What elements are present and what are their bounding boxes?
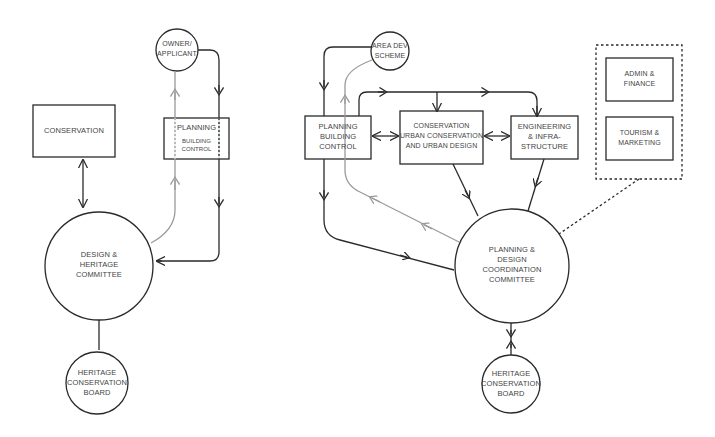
admin-finance-label: ADMIN & FINANCE bbox=[606, 69, 673, 89]
heritage-board-label-right: HERITAGE CONSERVATION BOARD bbox=[480, 369, 542, 399]
area-dev-scheme-label: AREA DEV SCHEME bbox=[371, 41, 409, 61]
owner-applicant-label: OWNER/ APPLICANT bbox=[156, 39, 198, 59]
gray-flow-up bbox=[151, 71, 175, 243]
conservation-label: CONSERVATION bbox=[33, 126, 115, 136]
design-heritage-committee-label: DESIGN & HERITAGE COMMITTEE bbox=[45, 250, 153, 280]
building-control-label: BUILDING CONTROL bbox=[164, 137, 229, 153]
dark-flow-down bbox=[157, 50, 219, 261]
tourism-marketing-label: TOURISM & MARKETING bbox=[606, 128, 673, 148]
heritage-board-label-left: HERITAGE CONSERVATION BOARD bbox=[66, 368, 128, 398]
planning-building-control-label: PLANNING BUILDING CONTROL bbox=[305, 122, 371, 152]
coordination-committee-label: PLANNING & DESIGN COORDINATION COMMITTEE bbox=[462, 245, 562, 285]
right-diagram bbox=[305, 32, 682, 413]
planning-label: PLANNING bbox=[164, 123, 229, 133]
left-diagram bbox=[33, 29, 229, 414]
conservation-urban-design-label: CONSERVATION URBAN CONSERVATION AND URBA… bbox=[396, 121, 487, 151]
support-units-group bbox=[596, 45, 682, 179]
engineering-label: ENGINEERING & INFRA- STRUCTURE bbox=[511, 122, 578, 152]
